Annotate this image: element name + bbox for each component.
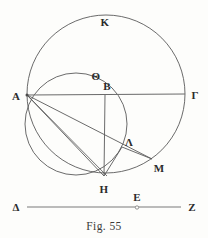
- figure-container: K Θ B A Γ Λ M H Δ E Z Fig. 55: [0, 0, 208, 238]
- line-a-gamma: [27, 94, 185, 95]
- label-m: M: [154, 163, 165, 174]
- line-b-h: [104, 95, 105, 176]
- line-lambda-m: [122, 147, 152, 159]
- label-k: K: [101, 17, 110, 28]
- figure-caption: Fig. 55: [86, 220, 121, 232]
- label-delta: Δ: [12, 202, 19, 213]
- label-b: B: [103, 81, 111, 92]
- label-lambda: Λ: [125, 137, 133, 148]
- line-a-m: [27, 95, 152, 159]
- geometry-diagram: [0, 0, 208, 238]
- point-a-marker: [26, 94, 29, 97]
- label-z: Z: [188, 202, 196, 213]
- label-a: A: [12, 91, 20, 102]
- label-h: H: [100, 184, 109, 195]
- label-theta: Θ: [92, 71, 101, 82]
- small-circle: [25, 73, 127, 175]
- label-gamma: Γ: [191, 90, 198, 101]
- point-e-marker: [135, 206, 138, 209]
- label-e: E: [133, 192, 141, 203]
